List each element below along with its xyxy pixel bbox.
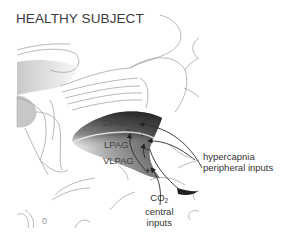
label-inputs: inputs <box>145 217 174 228</box>
corner-mark: 0 <box>42 216 47 226</box>
sign-vlpag-plus: + <box>145 166 151 176</box>
left-shaded-structures <box>17 60 76 127</box>
label-vlpag: VLPAG <box>103 156 134 166</box>
label-hypercapnia: hypercapnia <box>203 151 273 162</box>
label-hypercapnia-peripheral-inputs: hypercapnia peripheral inputs <box>203 151 273 173</box>
arrow-tail-shape <box>177 188 198 195</box>
label-dpag: DPAG <box>103 118 128 128</box>
peripheral-curve-lower <box>150 150 180 190</box>
label-lpag: LPAG <box>104 140 129 150</box>
label-central: central <box>145 206 174 217</box>
label-peripheral-inputs: peripheral inputs <box>203 162 273 173</box>
sign-dpag-minus: − <box>126 125 132 135</box>
sign-dpag-plus: + <box>140 131 144 141</box>
sign-lpag-minus: − <box>145 145 151 155</box>
pag-brain-section-diagram <box>0 0 287 242</box>
label-co2: CO2 <box>145 192 174 206</box>
label-co2-central-inputs: CO2 central inputs <box>145 192 174 228</box>
